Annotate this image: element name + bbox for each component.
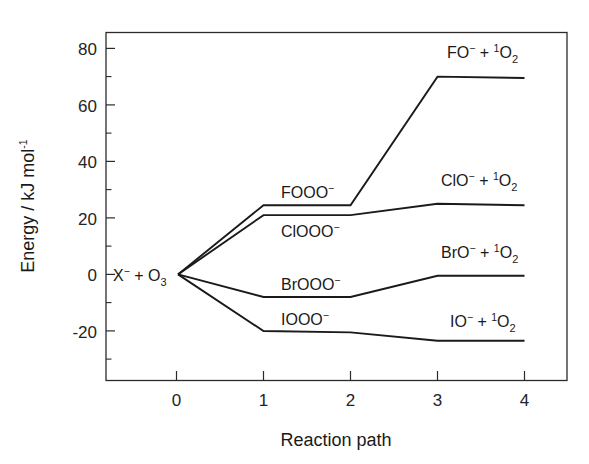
x-tick-label: 0 <box>172 391 181 410</box>
x-axis-title: Reaction path <box>280 430 391 450</box>
y-tick-label: -20 <box>72 323 97 342</box>
y-axis-title: Energy / kJ mol-1 <box>17 139 38 273</box>
product-label-chloride-mol: O <box>499 172 511 189</box>
product-labels: FO− + 1O2 ClO− + 1O2 BrO− + 1O2 IO− + 1O… <box>441 42 518 334</box>
x-tick-label: 3 <box>433 391 442 410</box>
series-line-bromide <box>178 274 525 297</box>
series-line-chloride <box>178 204 525 275</box>
product-label-chloride-plus: + <box>475 172 493 189</box>
y-tick-label: 80 <box>78 40 97 59</box>
product-label-iodide-base: IO <box>450 313 467 330</box>
intermediate-label-fluoride-base: FOOO <box>281 184 328 201</box>
product-label-fluoride-mol: O <box>499 44 511 61</box>
intermediate-label-fluoride: FOOO− <box>281 182 334 201</box>
y-axis-title-exponent: -1 <box>17 139 29 148</box>
origin-label-subscript: 3 <box>161 276 167 288</box>
intermediate-label-iodide-charge: − <box>323 309 329 321</box>
product-label-bromide-base: BrO <box>441 244 469 261</box>
x-axis-major-ticks <box>177 371 525 381</box>
product-label-iodide-plus: + <box>473 313 491 330</box>
product-label-bromide-plus: + <box>476 244 494 261</box>
product-label-bromide-mol: O <box>500 244 512 261</box>
intermediate-labels: FOOO− ClOOO− BrOOO− IOOO− <box>281 182 340 328</box>
x-tick-label: 2 <box>346 391 355 410</box>
product-label-bromide-sub: 2 <box>512 253 518 265</box>
series-line-iodide <box>178 274 525 340</box>
y-tick-label: 60 <box>78 97 97 116</box>
y-tick-label: 40 <box>78 153 97 172</box>
y-tick-label: 20 <box>78 210 97 229</box>
intermediate-label-fluoride-charge: − <box>328 182 334 194</box>
x-axis-tick-labels: 0 1 2 3 4 <box>172 391 529 410</box>
product-label-chloride-sub: 2 <box>511 181 517 193</box>
y-axis-tick-labels: 80 60 40 20 0 -20 <box>72 40 97 342</box>
product-label-chloride-base: ClO <box>441 172 469 189</box>
product-label-iodide-mol: O <box>497 313 509 330</box>
product-label-fluoride-base: FO <box>447 44 469 61</box>
y-tick-label: 0 <box>88 266 97 285</box>
x-tick-label: 1 <box>259 391 268 410</box>
intermediate-label-bromide-base: BrOOO <box>281 276 334 293</box>
series-lines <box>178 77 525 341</box>
product-label-bromide: BrO− + 1O2 <box>441 242 518 265</box>
y-axis-title-text: Energy / kJ mol <box>18 149 38 273</box>
product-label-iodide: IO− + 1O2 <box>450 311 516 334</box>
x-tick-label: 4 <box>520 391 529 410</box>
product-label-chloride: ClO− + 1O2 <box>441 170 517 193</box>
product-label-fluoride-sub: 2 <box>512 53 518 65</box>
intermediate-label-chloride: ClOOO− <box>281 221 340 240</box>
intermediate-label-iodide-base: IOOO <box>281 311 323 328</box>
origin-label-base: X <box>113 267 124 284</box>
origin-label: X− + O3 <box>113 265 167 288</box>
product-label-fluoride-plus: + <box>475 44 493 61</box>
intermediate-label-chloride-base: ClOOO <box>281 223 333 240</box>
intermediate-label-bromide: BrOOO− <box>281 274 340 293</box>
energy-diagram-figure: 80 60 40 20 0 -20 0 1 2 3 4 Energy / kJ … <box>0 0 589 464</box>
intermediate-label-iodide: IOOO− <box>281 309 329 328</box>
intermediate-label-bromide-charge: − <box>334 274 340 286</box>
product-label-fluoride: FO− + 1O2 <box>447 42 518 65</box>
product-label-iodide-sub: 2 <box>510 322 516 334</box>
origin-label-plus: + O <box>130 267 161 284</box>
axis-titles: Energy / kJ mol-1 Reaction path <box>17 139 392 450</box>
chart-canvas: 80 60 40 20 0 -20 0 1 2 3 4 Energy / kJ … <box>0 0 589 464</box>
intermediate-label-chloride-charge: − <box>333 221 339 233</box>
